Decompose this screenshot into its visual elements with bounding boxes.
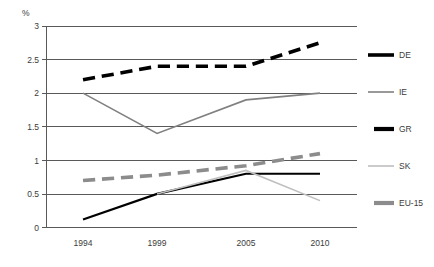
y-tick-label-0_5: 0.5 bbox=[27, 189, 39, 199]
x-tick-label-2010: 2010 bbox=[311, 238, 330, 248]
data-series-layer bbox=[83, 43, 320, 220]
legend-item-sk[interactable]: SK bbox=[368, 161, 411, 171]
series-line-ie bbox=[83, 93, 320, 133]
legend-item-de[interactable]: DE bbox=[368, 50, 411, 60]
legend-label-sk: SK bbox=[399, 161, 411, 171]
series-line-gr bbox=[83, 174, 320, 220]
y-tick-label-1: 1 bbox=[34, 156, 39, 166]
legend-label-de: DE bbox=[399, 50, 411, 60]
x-axis-labels: 1994 1999 2005 2010 bbox=[74, 238, 330, 248]
x-tick-label-2005: 2005 bbox=[237, 238, 256, 248]
legend-label-ie: IE bbox=[399, 87, 407, 97]
x-tick-label-1994: 1994 bbox=[74, 238, 93, 248]
x-tick-label-1999: 1999 bbox=[148, 238, 167, 248]
y-tick-label-2_5: 2.5 bbox=[27, 55, 39, 65]
y-tick-label-3: 3 bbox=[34, 21, 39, 31]
legend-item-ie[interactable]: IE bbox=[368, 87, 407, 97]
legend-label-eu-15: EU-15 bbox=[399, 198, 423, 208]
chart-canvas: % 3 2.5 2 1.5 1 bbox=[0, 0, 434, 267]
y-tick-label-0: 0 bbox=[34, 223, 39, 233]
legend-item-eu-15[interactable]: EU-15 bbox=[374, 198, 423, 208]
series-line-eu-15 bbox=[83, 154, 320, 181]
y-axis-unit-label: % bbox=[22, 8, 30, 18]
y-tick-label-1_5: 1.5 bbox=[27, 122, 39, 132]
line-chart: % 3 2.5 2 1.5 1 bbox=[0, 0, 434, 267]
chart-legend: DEIEGRSKEU-15 bbox=[368, 50, 423, 208]
series-line-de bbox=[83, 43, 320, 80]
y-tick-label-2: 2 bbox=[34, 88, 39, 98]
y-tick-marks bbox=[42, 26, 46, 228]
y-axis-labels: 3 2.5 2 1.5 1 0.5 0 bbox=[27, 21, 39, 233]
legend-item-gr[interactable]: GR bbox=[374, 124, 412, 134]
legend-label-gr: GR bbox=[399, 124, 412, 134]
